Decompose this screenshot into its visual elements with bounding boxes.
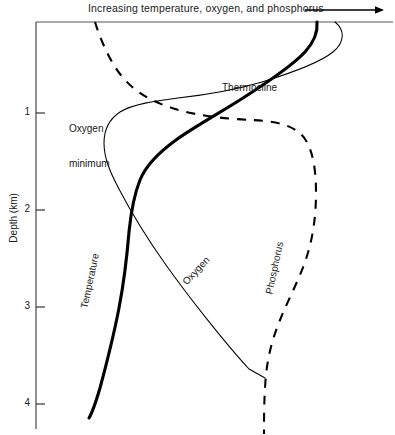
temperature-curve <box>89 22 317 418</box>
oxygen-minimum-annotation: Oxygen minimum <box>69 99 110 193</box>
oxygen-curve <box>104 22 342 378</box>
oceanographic-depth-profile-figure: Increasing temperature, oxygen, and phos… <box>0 0 395 435</box>
tick-label-1: 1 <box>14 106 30 117</box>
oxygen-minimum-line-2: minimum <box>69 158 110 170</box>
plot-canvas <box>0 0 395 435</box>
oxygen-minimum-line-1: Oxygen <box>69 123 110 135</box>
y-axis-ticks <box>36 113 45 404</box>
tick-label-4: 4 <box>14 397 30 408</box>
tick-label-3: 3 <box>14 300 30 311</box>
tick-label-2: 2 <box>14 203 30 214</box>
thermocline-annotation: Thermocline <box>222 82 277 94</box>
right-arrow-icon <box>305 6 384 14</box>
